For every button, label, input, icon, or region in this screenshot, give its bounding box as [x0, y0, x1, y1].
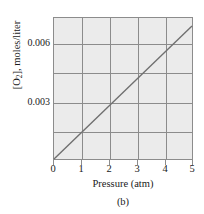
figure-panel: [O2], moles/liter 0.006 0.003 0 1 2 3 4 …	[0, 0, 204, 214]
x-tick-label: 2	[99, 163, 119, 175]
x-axis-label: Pressure (atm)	[53, 178, 193, 189]
x-tick-label: 5	[182, 163, 202, 175]
x-tick-label: 3	[127, 163, 147, 175]
figure-caption: (b)	[53, 196, 193, 207]
data-series-line	[54, 18, 192, 159]
y-axis-tick-labels: 0.006 0.003	[14, 0, 50, 214]
y-tick-label: 0.006	[16, 38, 50, 48]
plot-area	[53, 17, 193, 160]
x-tick-label: 0	[43, 163, 63, 175]
y-tick-label: 0.003	[16, 97, 50, 107]
x-tick-label: 4	[155, 163, 175, 175]
x-tick-label: 1	[71, 163, 91, 175]
